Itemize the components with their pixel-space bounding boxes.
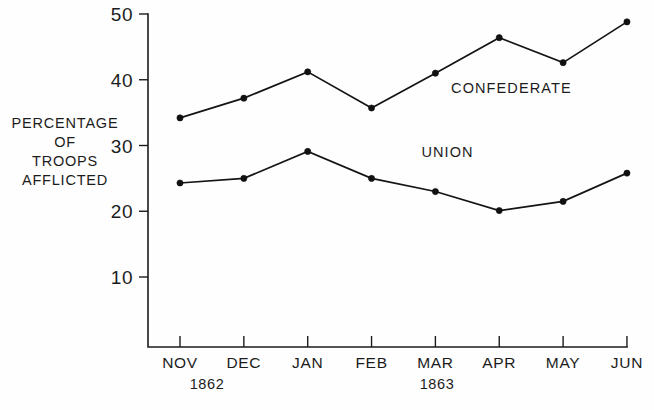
data-point-union-may [560,198,566,204]
data-point-union-dec [241,175,247,181]
data-point-union-apr [496,207,502,213]
series-label-union: UNION [421,144,473,160]
data-point-confederate-dec [241,95,247,101]
chart-container: PERCENTAGE OF TROOPS AFFLICTED 102030405… [0,0,654,410]
y-axis-title-line-1: PERCENTAGE [12,115,119,131]
y-tick-label-20: 20 [111,201,133,222]
x-tick-label-jan: JAN [292,354,323,371]
data-point-confederate-feb [368,105,374,111]
y-axis-title-line-4: AFFLICTED [22,172,108,188]
data-point-union-feb [368,175,374,181]
x-tick-label-mar: MAR [417,354,454,371]
period-label-1862: 1862 [190,376,225,392]
data-point-confederate-may [560,60,566,66]
x-tick-label-nov: NOV [162,354,198,371]
x-tick-label-feb: FEB [355,354,387,371]
y-axis-ticks [139,14,148,277]
x-tick-label-apr: APR [482,354,516,371]
data-point-union-nov [177,180,183,186]
y-tick-label-40: 40 [111,70,133,91]
series-inline-labels: CONFEDERATEUNION [421,80,571,160]
data-point-confederate-jun [624,19,630,25]
y-axis-title-line-2: OF [54,134,76,150]
y-axis-tick-labels: 1020304050 [111,4,133,288]
y-tick-label-10: 10 [111,267,133,288]
line-chart-svg: PERCENTAGE OF TROOPS AFFLICTED 102030405… [0,0,654,410]
y-axis-title-line-3: TROOPS [32,153,98,169]
data-point-confederate-mar [432,70,438,76]
x-tick-label-jun: JUN [611,354,643,371]
y-tick-label-50: 50 [111,4,133,25]
x-axis-ticks [180,336,627,347]
x-axis-period-labels: 18621863 [190,376,455,392]
data-point-union-jun [624,170,630,176]
y-axis-title: PERCENTAGE OF TROOPS AFFLICTED [12,115,119,188]
x-axis-tick-labels: NOVDECJANFEBMARAPRMAYJUN [162,354,643,371]
data-point-confederate-nov [177,115,183,121]
x-tick-label-may: MAY [546,354,581,371]
data-point-confederate-jan [305,69,311,75]
series-label-confederate: CONFEDERATE [451,80,572,96]
series-polylines [180,22,627,211]
x-tick-label-dec: DEC [226,354,261,371]
series-line-confederate [180,22,627,118]
period-label-1863: 1863 [420,376,455,392]
data-point-union-mar [432,188,438,194]
y-tick-label-30: 30 [111,136,133,157]
data-point-union-jan [305,148,311,154]
data-point-confederate-apr [496,35,502,41]
